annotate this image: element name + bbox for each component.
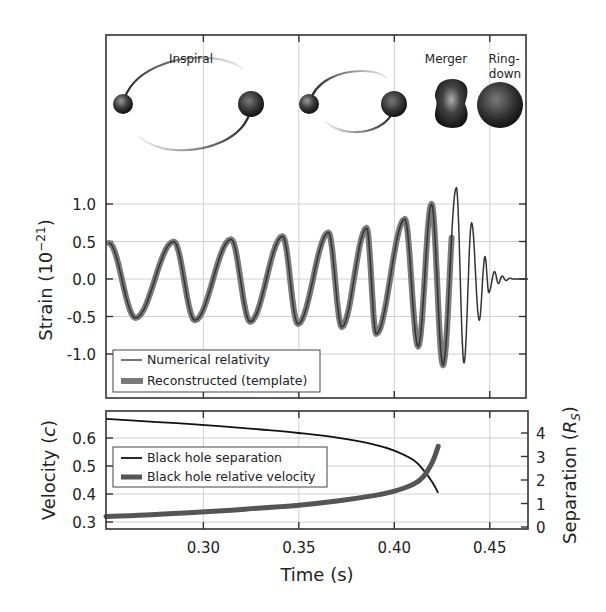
strain-tick-label: 1.0 xyxy=(72,196,96,214)
ringdown-black-hole-icon xyxy=(477,82,523,128)
strain-tick-label: -1.0 xyxy=(67,346,96,364)
legend-label-velocity: Black hole relative velocity xyxy=(147,469,316,484)
velocity-axis-label: Velocity (c) xyxy=(38,420,59,520)
merging-black-holes-icon xyxy=(435,79,468,128)
black-hole-small-icon xyxy=(299,94,319,114)
time-tick-label: 0.30 xyxy=(187,539,220,557)
legend-label-nr: Numerical relativity xyxy=(147,352,271,367)
strain-tick-label: -0.5 xyxy=(67,309,96,327)
velocity-tick-label: 0.4 xyxy=(72,486,96,504)
velocity-tick-label: 0.6 xyxy=(72,430,96,448)
legend-label-template: Reconstructed (template) xyxy=(147,373,307,388)
black-hole-large-icon xyxy=(238,91,264,117)
strain-panel: Inspiral Merger Ring- down Numerical rel… xyxy=(106,35,528,398)
black-hole-large-icon xyxy=(381,91,407,117)
legend-swatch-template xyxy=(121,378,143,384)
separation-axis-label: Separation (RS) xyxy=(559,406,583,544)
strain-tick-label: 0.5 xyxy=(72,234,96,252)
phase-label-inspiral: Inspiral xyxy=(169,52,213,66)
strain-tick-labels: 1.00.50.0-0.5-1.0 xyxy=(67,196,96,364)
separation-tick-label: 3 xyxy=(536,449,546,467)
legend-label-separation: Black hole separation xyxy=(147,450,282,465)
black-hole-small-icon xyxy=(113,94,133,114)
time-tick-label: 0.45 xyxy=(473,539,506,557)
time-axis-label: Time (s) xyxy=(279,564,353,585)
velocity-tick-label: 0.3 xyxy=(72,514,96,532)
figure: Inspiral Merger Ring- down Numerical rel… xyxy=(0,0,606,612)
phase-label-merger: Merger xyxy=(425,52,467,66)
time-tick-label: 0.40 xyxy=(378,539,411,557)
separation-tick-label: 2 xyxy=(536,472,546,490)
time-tick-label: 0.35 xyxy=(282,539,315,557)
separation-tick-label: 0 xyxy=(536,519,546,537)
strain-legend: Numerical relativity Reconstructed (temp… xyxy=(113,350,320,392)
strain-tick-label: 0.0 xyxy=(72,271,96,289)
strain-axis-label: Strain (10−21) xyxy=(34,219,56,340)
orbit-panel: Black hole separation Black hole relativ… xyxy=(106,411,528,529)
phase-label-ringdown-line2: down xyxy=(489,67,521,81)
separation-tick-label: 1 xyxy=(536,496,546,514)
velocity-tick-label: 0.5 xyxy=(72,458,96,476)
phase-label-ringdown-line1: Ring- xyxy=(488,52,519,66)
orbit-legend: Black hole separation Black hole relativ… xyxy=(113,447,327,487)
separation-tick-label: 4 xyxy=(536,425,546,443)
